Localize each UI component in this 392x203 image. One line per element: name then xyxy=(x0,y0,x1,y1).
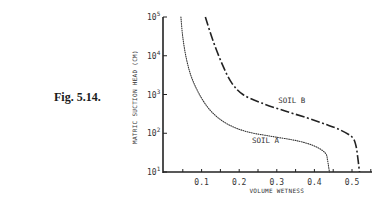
x-axis-title: VOLUME WETNESS xyxy=(249,187,304,194)
chart: 1011021031041050.10.20.30.40.5VOLUME WET… xyxy=(0,0,392,203)
y-tick-label: 102 xyxy=(147,126,161,138)
x-tick-label: 0.3 xyxy=(270,178,285,187)
y-axis-title: MATRIC SUCTION HEAD (CM) xyxy=(131,50,138,144)
y-tick-label: 104 xyxy=(147,49,161,61)
x-tick-label: 0.2 xyxy=(232,178,247,187)
curve-label: SOIL A xyxy=(252,136,280,145)
y-tick-label: 101 xyxy=(147,165,161,177)
curve-soil-b xyxy=(205,17,359,172)
y-tick-label: 105 xyxy=(147,10,161,22)
x-tick-label: 0.4 xyxy=(307,178,322,187)
curve-label: SOIL B xyxy=(278,96,306,105)
x-tick-label: 0.5 xyxy=(345,178,360,187)
curve-soil-a xyxy=(181,17,330,172)
y-tick-label: 103 xyxy=(147,88,161,100)
x-tick-label: 0.1 xyxy=(194,178,209,187)
